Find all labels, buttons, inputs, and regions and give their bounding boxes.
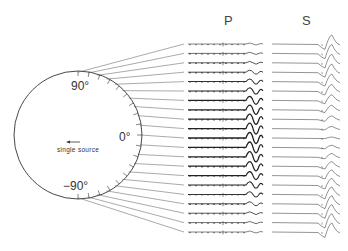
ray-line	[97, 195, 184, 214]
ray-line	[129, 172, 184, 176]
ray-line	[115, 186, 184, 195]
arrow-head-icon	[66, 141, 70, 144]
s-wave-trace	[272, 205, 340, 219]
angle-tick	[123, 173, 127, 176]
s-wave-trace	[272, 74, 340, 86]
p-wave-trace	[188, 192, 263, 197]
ray-line	[78, 44, 184, 72]
p-wave-trace	[188, 123, 263, 134]
angle-label-90: 90°	[71, 80, 89, 92]
p-wave-trace	[188, 182, 263, 189]
p-wave-trace	[188, 79, 263, 84]
p-wave-column-title: P	[224, 14, 233, 27]
p-wave-trace	[188, 231, 263, 233]
p-wave-trace	[188, 114, 263, 124]
s-wave-trace	[272, 214, 340, 228]
p-wave-trace	[188, 212, 263, 215]
s-wave-trace	[272, 223, 340, 237]
ray-line	[138, 116, 184, 120]
s-wave-trace	[272, 105, 340, 112]
ray-line	[78, 198, 184, 232]
s-wave-trace	[272, 84, 340, 95]
ray-line	[122, 179, 184, 185]
ray-line	[138, 154, 184, 156]
ray-line	[88, 197, 184, 223]
ray-line	[129, 98, 184, 100]
ray-line	[106, 72, 184, 79]
angle-label-minus-90: −90°	[63, 180, 88, 192]
ray-line	[134, 107, 184, 110]
p-wave-trace	[188, 105, 263, 114]
s-wave-trace	[272, 35, 340, 49]
angle-tick	[129, 103, 133, 106]
p-wave-trace	[188, 152, 263, 162]
s-wave-trace	[272, 44, 340, 58]
ray-line	[140, 125, 184, 128]
angle-label-0: 0°	[119, 131, 130, 143]
angle-tick	[108, 186, 111, 190]
ray-line	[140, 145, 184, 148]
s-wave-trace	[272, 153, 340, 159]
s-wave-trace	[272, 145, 340, 149]
angle-tick	[136, 145, 141, 146]
p-wave-trace	[188, 133, 263, 144]
angle-tick	[98, 75, 100, 80]
s-wave-trace	[272, 137, 340, 139]
p-wave-trace	[188, 96, 263, 104]
ray-line	[115, 82, 184, 85]
s-wave-trace	[272, 116, 340, 122]
angle-tick	[108, 80, 111, 84]
ray-line	[88, 53, 184, 73]
angle-tick	[98, 190, 100, 195]
ray-line	[134, 163, 184, 166]
s-wave-column-title: S	[302, 14, 311, 27]
p-wave-trace	[188, 43, 263, 45]
angle-tick	[133, 113, 138, 115]
p-wave-trace	[188, 52, 263, 54]
radiation-pattern-figure: P S 90° 0° −90° single source	[0, 0, 348, 251]
p-wave-trace	[188, 61, 263, 64]
p-wave-trace	[188, 172, 263, 180]
diagram-canvas	[0, 0, 348, 251]
ray-line	[141, 135, 184, 138]
p-wave-trace	[188, 221, 263, 223]
angle-tick	[123, 94, 127, 97]
s-wave-trace	[272, 170, 340, 179]
angle-tick	[136, 124, 141, 125]
angle-tick	[133, 155, 138, 157]
p-wave-trace	[188, 88, 263, 95]
s-wave-trace	[272, 178, 340, 189]
s-wave-trace	[272, 162, 340, 169]
p-wave-trace	[188, 202, 263, 206]
angle-tick	[116, 180, 119, 184]
s-wave-trace	[272, 126, 340, 130]
p-wave-trace	[188, 142, 263, 153]
single-source-label: single source	[57, 147, 99, 154]
s-wave-trace	[272, 95, 340, 104]
p-wave-trace	[188, 162, 263, 171]
angle-tick	[116, 86, 119, 90]
p-wave-trace	[188, 70, 263, 74]
angle-tick	[129, 165, 133, 168]
